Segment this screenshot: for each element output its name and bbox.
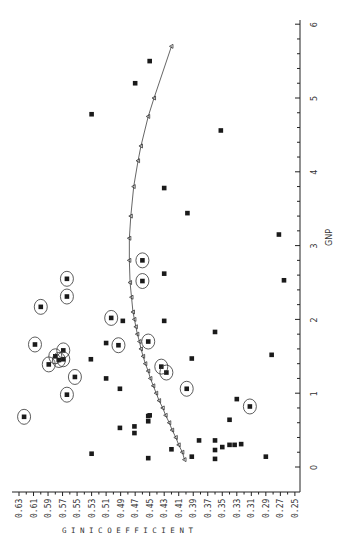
gini-tick-label: 0.43: [160, 499, 169, 518]
square-marker: [197, 438, 202, 443]
gini-tick-label: 0.37: [204, 499, 213, 518]
square-marker: [38, 305, 43, 310]
gini-tick-label: 0.55: [73, 499, 82, 518]
square-marker: [133, 81, 138, 86]
gnp-tick-label: 2: [310, 317, 319, 322]
square-marker: [146, 456, 151, 461]
square-marker: [162, 271, 167, 276]
square-marker: [147, 413, 152, 418]
fitted-curve: [127, 44, 186, 461]
gnp-tick-label: 6: [310, 22, 319, 27]
gini-tick-label: 0.29: [262, 499, 271, 518]
gini-tick-label: 0.39: [189, 499, 198, 518]
x-axis-title: GNP: [325, 229, 334, 246]
gini-tick-label: 0.59: [44, 499, 53, 518]
square-marker: [189, 454, 194, 459]
square-marker: [185, 211, 190, 216]
square-marker: [132, 431, 137, 436]
square-marker: [235, 397, 240, 402]
gini-tick-label: 0.27: [276, 499, 285, 518]
fitted-line: [129, 46, 184, 459]
square-marker: [73, 375, 78, 380]
square-marker: [89, 112, 94, 117]
gini-tick-label: 0.33: [233, 499, 242, 518]
square-marker: [132, 424, 137, 429]
square-marker: [213, 448, 218, 453]
square-marker: [264, 454, 269, 459]
gnp-tick-label: 4: [310, 170, 319, 175]
gini-tick-label: 0.57: [59, 499, 68, 518]
square-marker: [169, 447, 174, 452]
gini-tick-label: 0.61: [30, 499, 39, 518]
square-marker: [213, 457, 218, 462]
gini-tick-label: 0.31: [247, 499, 256, 518]
data-points: [18, 59, 287, 461]
square-marker: [269, 353, 274, 358]
square-marker: [147, 59, 152, 64]
gini-tick-label: 0.49: [117, 499, 126, 518]
gini-tick-label: 0.51: [102, 499, 111, 518]
square-marker: [146, 419, 151, 424]
gini-tick-label: 0.63: [15, 499, 24, 518]
square-marker: [116, 343, 121, 348]
square-marker: [118, 426, 123, 431]
square-marker: [140, 258, 145, 263]
square-marker: [282, 278, 287, 283]
square-marker: [65, 392, 70, 397]
chart-axes: 0.630.610.590.570.550.530.510.490.470.45…: [12, 20, 319, 518]
gnp-tick-label: 0: [310, 465, 319, 470]
square-marker: [33, 342, 38, 347]
square-marker: [184, 386, 189, 391]
square-marker: [104, 376, 109, 381]
square-marker: [121, 319, 126, 324]
square-marker: [213, 438, 218, 443]
square-marker: [162, 186, 167, 191]
gini-tick-label: 0.53: [88, 499, 97, 518]
square-marker: [89, 451, 94, 456]
gini-tick-label: 0.47: [131, 499, 140, 518]
square-marker: [65, 294, 70, 299]
square-marker: [220, 445, 225, 450]
gnp-tick-label: 5: [310, 96, 319, 101]
gnp-tick-label: 3: [310, 244, 319, 249]
square-marker: [118, 386, 123, 391]
square-marker: [219, 128, 224, 133]
square-marker: [232, 443, 237, 448]
square-marker: [65, 277, 70, 282]
square-marker: [89, 357, 94, 362]
square-marker: [277, 232, 282, 237]
square-marker: [46, 362, 51, 367]
square-marker: [109, 316, 114, 321]
gini-tick-label: 0.45: [146, 499, 155, 518]
gini-vs-gnp-chart: 0.630.610.590.570.550.530.510.490.470.45…: [0, 0, 363, 548]
square-marker: [22, 415, 27, 420]
y-axis-title: G I N I C O E F F I C I E N T: [62, 526, 193, 535]
square-marker: [146, 339, 151, 344]
square-marker: [248, 404, 253, 409]
gini-tick-label: 0.41: [175, 499, 184, 518]
gini-tick-label: 0.35: [218, 499, 227, 518]
square-marker: [162, 319, 167, 324]
square-marker: [140, 279, 145, 284]
square-marker: [189, 356, 194, 361]
square-marker: [239, 442, 244, 447]
square-marker: [213, 330, 218, 335]
gini-tick-label: 0.25: [291, 499, 300, 518]
square-marker: [227, 443, 232, 448]
gnp-tick-label: 1: [310, 391, 319, 396]
square-marker: [227, 417, 232, 422]
square-marker: [104, 341, 109, 346]
